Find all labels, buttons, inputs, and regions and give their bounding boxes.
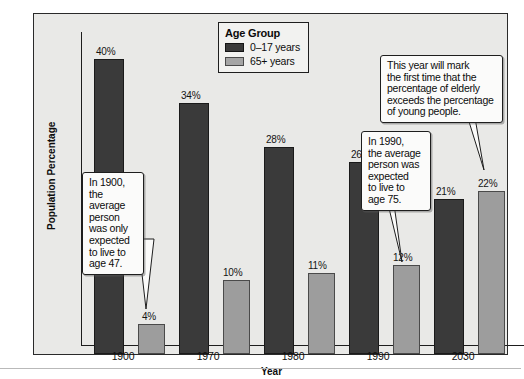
chart-legend[interactable]: Age Group 0–17 years 65+ years [218,22,309,73]
bar-elderly-2030[interactable] [478,191,505,354]
x-tick-1970: 1970 [173,350,243,362]
annotation-1990[interactable]: In 1990, the average person was expected… [361,131,431,211]
bar-label-elderly-1980: 11% [308,260,327,271]
annotation-1990-line-1: In 1990, [368,136,425,148]
annotation-1990-line-6: age 75. [368,194,425,206]
annotation-2030-line-1: This year will mark [387,60,497,72]
legend-item-elderly[interactable]: 65+ years [225,55,300,67]
bar-label-young-1970: 34% [181,90,200,101]
legend-item-young[interactable]: 0–17 years [225,41,300,53]
annotation-1900-line-5: expected [89,235,138,247]
bar-elderly-1970-wrap: 10% [223,41,253,354]
y-axis-title-holder: Population Percentage [48,134,62,314]
annotation-1900-line-7: age 47. [89,258,138,270]
page-divider [0,368,521,369]
x-tick-1990: 1990 [343,350,413,362]
chart-frame: Population Percentage 40% 4% 34% 10% 28% [33,13,508,355]
x-tick-1900: 1900 [88,350,158,362]
y-axis-title: Population Percentage [46,70,57,230]
bar-label-young-1980: 28% [266,134,285,145]
legend-label-young: 0–17 years [250,41,300,53]
annotation-2030-line-5: of young people. [387,106,497,118]
bar-elderly-1980-wrap: 11% [308,41,338,354]
bar-young-1980-wrap: 28% [264,41,294,354]
annotation-1990-tail-icon [364,204,434,284]
bar-label-young-1900: 40% [96,46,115,57]
annotation-2030[interactable]: This year will mark the first time that … [380,55,503,123]
bar-label-young-2030: 21% [436,186,455,197]
bar-label-elderly-1970: 10% [223,267,242,278]
bar-elderly-1970[interactable] [223,280,250,354]
legend-label-elderly: 65+ years [250,55,295,67]
x-tick-2030: 2030 [428,350,498,362]
bar-young-2030[interactable] [434,199,464,354]
annotation-1900-line-1: In 1900, [89,177,138,189]
annotation-1900-line-2: the average [89,189,138,212]
x-tick-1980: 1980 [258,350,328,362]
legend-swatch-young-icon [225,43,244,52]
legend-title: Age Group [225,27,300,39]
bar-young-1980[interactable] [264,147,294,354]
annotation-1900[interactable]: In 1900, the average person was only exp… [82,172,144,275]
bar-elderly-1980[interactable] [308,273,335,354]
legend-swatch-elderly-icon [225,57,244,66]
